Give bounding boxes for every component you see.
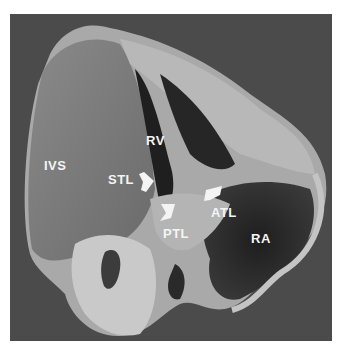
label-ptl: PTL [163, 227, 189, 240]
label-stl: STL [108, 173, 134, 186]
label-ra: RA [251, 232, 271, 245]
specimen-photo [10, 14, 332, 341]
heart-specimen-illustration [10, 14, 332, 341]
label-atl: ATL [211, 206, 237, 219]
label-rv: RV [146, 134, 165, 147]
label-ivs: IVS [44, 159, 66, 172]
